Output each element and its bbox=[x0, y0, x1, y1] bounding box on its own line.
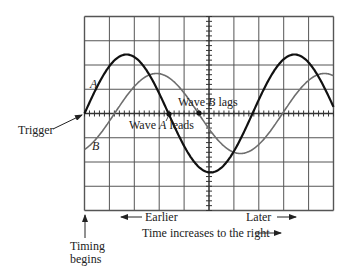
wave-a-label: A bbox=[90, 78, 97, 91]
wave-b-label: B bbox=[92, 140, 99, 153]
trigger-label: Trigger bbox=[18, 124, 54, 137]
wave-b-lags-label: Wave B lags bbox=[178, 96, 238, 109]
earlier-label: Earlier bbox=[145, 211, 178, 224]
later-label: Later bbox=[246, 211, 271, 224]
wave-a-leads-label: Wave A leads bbox=[129, 119, 194, 132]
time-axis-label: Time increases to the right bbox=[142, 227, 270, 240]
timing-begins-label-line2: begins bbox=[70, 253, 101, 266]
trigger-arrow bbox=[53, 115, 82, 129]
axis-ticks bbox=[85, 17, 334, 211]
